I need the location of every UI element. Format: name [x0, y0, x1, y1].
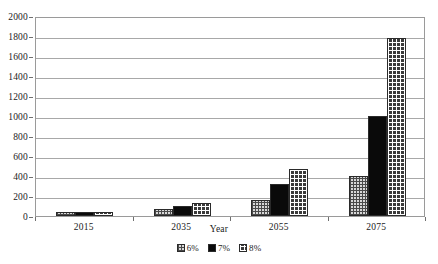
legend-swatch-icon — [208, 244, 216, 252]
y-axis-tick-label: 1400 — [8, 72, 28, 82]
bar-2015-7pct — [75, 212, 94, 216]
legend-entry-8pct: 8% — [239, 243, 261, 253]
y-axis-tick-mark — [29, 17, 33, 18]
legend-swatch-icon — [177, 244, 185, 252]
y-axis-tick-mark — [29, 117, 33, 118]
bar-2075-8pct — [387, 38, 406, 216]
y-axis-tick-label: 1800 — [8, 32, 28, 42]
y-axis-tick-label: 1000 — [8, 112, 28, 122]
chart-legend: 6%7%8% — [0, 243, 438, 253]
bar-2075-7pct — [368, 116, 387, 216]
y-axis-tick-mark — [29, 157, 33, 158]
bar-2015-6pct — [56, 212, 75, 216]
bar-2055-6pct — [251, 200, 270, 216]
x-axis-tick-mark — [230, 217, 231, 221]
x-axis-tick-mark — [35, 217, 36, 221]
y-axis-tick-mark — [29, 197, 33, 198]
y-axis-tick-mark — [29, 37, 33, 38]
bar-2055-7pct — [270, 184, 289, 216]
legend-swatch-icon — [239, 244, 247, 252]
legend-label: 7% — [218, 243, 230, 253]
y-axis-tick-mark — [29, 97, 33, 98]
bar-2035-6pct — [154, 209, 173, 217]
y-axis-tick-label: 1200 — [8, 92, 28, 102]
y-axis-tick-mark — [29, 57, 33, 58]
y-axis-tick-mark — [29, 137, 33, 138]
gridline — [36, 78, 424, 79]
bar-2035-8pct — [192, 203, 211, 216]
y-axis-tick-label: 1600 — [8, 52, 28, 62]
gridline — [36, 38, 424, 39]
plot-area — [35, 17, 425, 217]
x-axis-tick-mark — [425, 217, 426, 221]
y-axis-tick-label: 400 — [13, 172, 28, 182]
legend-entry-7pct: 7% — [208, 243, 230, 253]
bar-2055-8pct — [289, 169, 308, 216]
y-axis-tick-label: 200 — [13, 192, 28, 202]
y-axis-tick-label: 600 — [13, 152, 28, 162]
y-axis-tick-label: 0 — [23, 212, 28, 222]
gridline — [36, 98, 424, 99]
gridline — [36, 118, 424, 119]
bar-2035-7pct — [173, 206, 192, 217]
x-axis-title: Year — [0, 224, 438, 234]
y-axis-tick-mark — [29, 77, 33, 78]
y-axis-tick-label: 2000 — [8, 12, 28, 22]
y-axis-tick-label: 800 — [13, 132, 28, 142]
legend-entry-6pct: 6% — [177, 243, 199, 253]
gridline — [36, 138, 424, 139]
bar-2015-8pct — [94, 212, 113, 217]
legend-label: 8% — [249, 243, 261, 253]
y-axis-tick-mark — [29, 177, 33, 178]
x-axis-tick-mark — [328, 217, 329, 221]
y-axis: 0200400600800100012001400160018002000 — [0, 17, 33, 217]
bar-2075-6pct — [349, 176, 368, 216]
gridline — [36, 58, 424, 59]
gridline — [36, 158, 424, 159]
x-axis-tick-mark — [133, 217, 134, 221]
y-axis-tick-mark — [29, 217, 33, 218]
legend-label: 6% — [187, 243, 199, 253]
bar-chart: 0200400600800100012001400160018002000 20… — [0, 0, 438, 264]
